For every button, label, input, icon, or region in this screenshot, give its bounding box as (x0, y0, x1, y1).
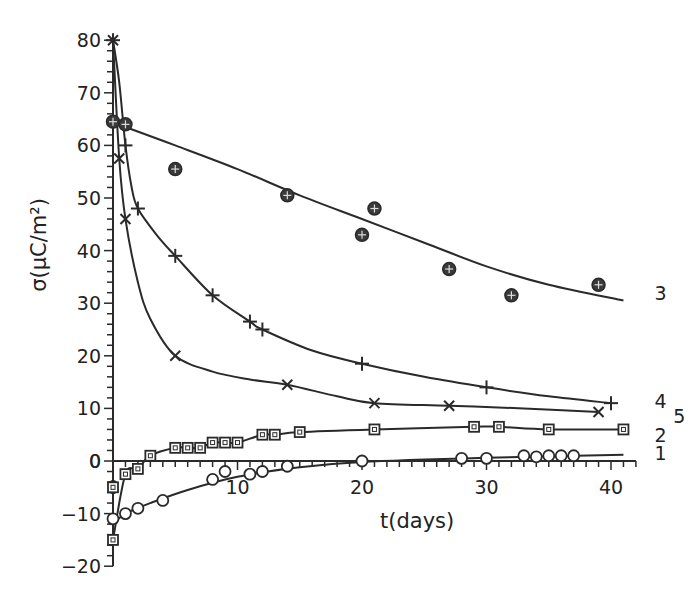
data-point-series-4 (255, 323, 269, 337)
data-point-series-3 (356, 228, 369, 241)
data-point-series-2 (170, 443, 180, 453)
data-point-series-1 (120, 508, 131, 519)
data-point-series-1 (531, 451, 542, 462)
data-markers (106, 33, 628, 545)
data-point-series-3 (443, 263, 456, 276)
data-point-series-3 (505, 289, 518, 302)
data-point-series-3 (281, 189, 294, 202)
data-point-series-2 (195, 443, 205, 453)
y-tick-label: 60 (77, 134, 101, 156)
series-label-5: 5 (673, 405, 685, 427)
data-point-series-2 (295, 427, 305, 437)
data-point-series-2 (369, 424, 379, 434)
data-point-series-1 (357, 456, 368, 467)
data-point-series-3 (119, 118, 132, 131)
data-point-series-1 (207, 474, 218, 485)
data-point-series-1 (518, 450, 529, 461)
x-tick-label: 40 (599, 476, 623, 498)
data-point-series-2 (270, 430, 280, 440)
series-label-4: 4 (655, 390, 667, 412)
data-point-series-2 (145, 451, 155, 461)
y-tick-label: 70 (77, 82, 101, 104)
data-point-series-3 (169, 163, 182, 176)
fit-curves (113, 40, 623, 540)
data-point-series-2 (544, 424, 554, 434)
y-tick-label: 10 (77, 397, 101, 419)
data-point-series-1 (157, 495, 168, 506)
series-label-2: 2 (655, 424, 667, 446)
data-point-series-2 (208, 438, 218, 448)
data-point-series-1 (244, 469, 255, 480)
data-point-series-3 (107, 115, 120, 128)
y-tick-label: 50 (77, 187, 101, 209)
data-point-series-1 (257, 466, 268, 477)
data-point-series-4 (118, 138, 132, 152)
y-tick-label: 20 (77, 345, 101, 367)
data-point-series-2 (233, 438, 243, 448)
data-point-series-1 (132, 503, 143, 514)
data-point-series-1 (282, 461, 293, 472)
data-point-series-1 (568, 450, 579, 461)
data-point-series-2 (220, 438, 230, 448)
data-point-series-2 (257, 430, 267, 440)
data-point-series-1 (108, 513, 119, 524)
series-label-3: 3 (655, 282, 667, 304)
y-tick-label: −10 (61, 503, 101, 525)
data-point-series-3 (368, 202, 381, 215)
y-axis-title: σ(μC/m²) (27, 198, 51, 292)
data-point-series-1 (220, 466, 231, 477)
data-point-series-2 (108, 482, 118, 492)
data-point-series-2 (108, 535, 118, 545)
data-point-series-1 (556, 450, 567, 461)
data-point-series-2 (469, 422, 479, 432)
y-tick-label: −20 (61, 555, 101, 577)
data-point-series-4 (480, 380, 494, 394)
data-point-series-4 (355, 357, 369, 371)
fit-curve-4 (113, 40, 611, 403)
y-tick-label: 40 (77, 240, 101, 262)
data-point-series-2 (183, 443, 193, 453)
x-axis-title: t(days) (380, 509, 454, 533)
data-point-series-2 (618, 424, 628, 434)
x-tick-label: 20 (350, 476, 374, 498)
charge-density-chart: −20−10010203040506070801020304000 12345 … (0, 0, 698, 601)
y-tick-label: 80 (77, 29, 101, 51)
data-point-series-2 (120, 469, 130, 479)
data-point-series-4 (131, 202, 145, 216)
data-point-series-4 (604, 396, 618, 410)
y-tick-label: 30 (77, 292, 101, 314)
data-point-series-1 (543, 450, 554, 461)
fit-curve-5 (113, 40, 599, 412)
data-point-series-2 (494, 422, 504, 432)
axes: −20−10010203040506070801020304000 (61, 29, 636, 577)
data-point-series-5 (170, 351, 180, 361)
data-point-series-1 (481, 453, 492, 464)
data-point-series-1 (456, 453, 467, 464)
series-labels: 12345 (655, 282, 686, 464)
data-point-series-2 (133, 464, 143, 474)
x-tick-label: 30 (474, 476, 498, 498)
y-tick-label: 0 (89, 450, 101, 472)
data-point-series-3 (592, 278, 605, 291)
